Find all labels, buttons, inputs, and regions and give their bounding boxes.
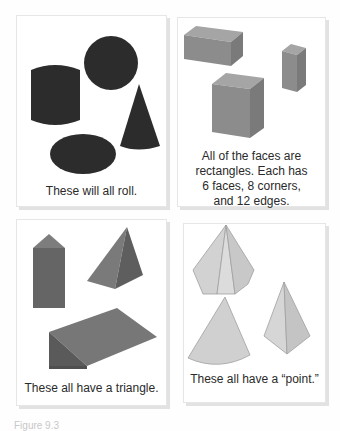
rectangular-prisms-illustration bbox=[178, 18, 325, 138]
cone-shape bbox=[120, 84, 160, 150]
card-caption: These will all roll. bbox=[17, 184, 166, 199]
cylinder-shape bbox=[31, 65, 80, 125]
card-caption: All of the faces are rectangles. Each ha… bbox=[178, 149, 325, 209]
sphere-shape bbox=[84, 36, 138, 90]
triangular-prism-wedge-shape bbox=[49, 308, 157, 369]
ellipsoid-shape bbox=[50, 134, 116, 174]
roll-shapes-illustration bbox=[17, 16, 166, 186]
triangle-shapes-illustration bbox=[17, 220, 166, 380]
small-tall-prism-shape bbox=[282, 44, 306, 92]
hexagonal-pyramid-shape bbox=[193, 225, 254, 294]
caption-line: All of the faces are bbox=[178, 149, 325, 164]
cone-shape bbox=[188, 297, 250, 364]
figure-label: Figure 9.3 bbox=[14, 420, 59, 431]
triangular-pyramid-shape bbox=[264, 282, 310, 354]
card-triangle-shapes: These all have a triangle. bbox=[16, 219, 167, 406]
card-roll-shapes: These will all roll. bbox=[16, 15, 167, 207]
caption-line: and 12 edges. bbox=[178, 194, 325, 209]
card-point-shapes: These all have a “point.” bbox=[183, 223, 326, 403]
card-caption: These all have a triangle. bbox=[17, 381, 166, 396]
square-pyramid-shape bbox=[87, 227, 143, 289]
caption-line: rectangles. Each has bbox=[178, 164, 325, 179]
triangular-prism-upright-shape bbox=[33, 234, 65, 308]
point-shapes-illustration bbox=[184, 224, 325, 374]
tall-prism-shape bbox=[212, 73, 264, 138]
card-rectangular-prisms: All of the faces are rectangles. Each ha… bbox=[177, 17, 326, 207]
wide-prism-shape bbox=[184, 26, 243, 66]
card-caption: These all have a “point.” bbox=[184, 372, 325, 387]
caption-line: 6 faces, 8 corners, bbox=[178, 179, 325, 194]
